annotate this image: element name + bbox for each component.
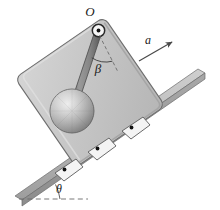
incline-angle-label: θ xyxy=(56,182,62,196)
wheel-middle-axle xyxy=(96,147,100,151)
physics-diagram-figure: β O a θ xyxy=(0,0,220,210)
acceleration-arrow-shaft xyxy=(139,42,172,61)
pivot-center-dot xyxy=(97,29,101,33)
pendulum-bob xyxy=(50,89,94,133)
diagram-canvas: β O a θ xyxy=(0,0,220,210)
pivot-label: O xyxy=(85,4,95,19)
wheel-right-axle xyxy=(130,126,134,130)
acceleration-arrow: a xyxy=(139,33,172,61)
acceleration-label: a xyxy=(145,33,151,47)
wheel-left-axle xyxy=(63,168,67,172)
cart-body xyxy=(15,17,165,167)
rod-angle-label: β xyxy=(94,61,102,76)
pivot-joint xyxy=(92,24,104,36)
cart-plate xyxy=(15,17,165,167)
pendulum-bob-turning-lines xyxy=(50,89,94,133)
